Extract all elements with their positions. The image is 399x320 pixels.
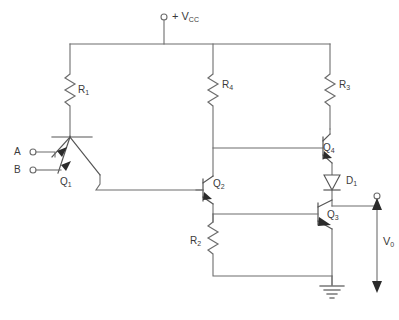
output-terminal[interactable] — [332, 193, 380, 206]
q1-transistor — [52, 136, 203, 190]
q3-label: Q3 — [327, 210, 339, 220]
q2-transistor — [196, 176, 213, 222]
r1-label: R1 — [78, 85, 89, 95]
r2-resistor — [208, 214, 332, 276]
q2-label: Q2 — [213, 179, 225, 189]
input-b-terminal[interactable] — [30, 167, 61, 173]
d1-label: D1 — [346, 176, 357, 186]
circuit-schematic-svg — [0, 0, 399, 320]
output-voltage-label: V0 — [383, 236, 394, 247]
circuit-diagram: + VCC R1 R4 R3 R2 A B Q1 Q2 Q4 Q3 D1 V0 — [0, 0, 399, 320]
input-b-label: B — [14, 165, 21, 175]
output-voltage-arrow — [372, 198, 382, 293]
r2-label: R2 — [190, 236, 201, 246]
vcc-label: + VCC — [172, 11, 199, 22]
r3-resistor — [325, 44, 335, 129]
q3-transistor — [213, 200, 332, 285]
r4-resistor — [208, 44, 218, 176]
d1-diode — [324, 175, 340, 206]
q1-label: Q1 — [60, 177, 72, 187]
input-a-label: A — [14, 147, 21, 157]
ground-symbol — [320, 276, 344, 298]
r4-label: R4 — [222, 80, 233, 90]
vcc-terminal — [161, 14, 167, 44]
input-a-terminal[interactable] — [30, 149, 55, 157]
r1-resistor — [65, 44, 75, 136]
r3-label: R3 — [339, 80, 350, 90]
q4-label: Q4 — [323, 143, 335, 153]
